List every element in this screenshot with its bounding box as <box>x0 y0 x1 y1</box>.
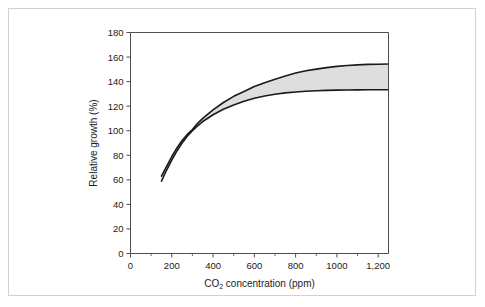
x-axis-title: CO2 concentration (ppm) <box>204 278 315 291</box>
chart-figure: 020040060080010001,200020406080100120140… <box>0 0 485 307</box>
y-axis-tick-label: 180 <box>108 27 124 38</box>
y-axis-tick-label: 140 <box>108 76 124 87</box>
relative-growth-vs-co2-chart: 020040060080010001,200020406080100120140… <box>0 0 485 307</box>
curve-lower-bound <box>161 90 388 181</box>
y-axis-tick-label: 20 <box>113 223 124 234</box>
x-axis-tick-label: 1000 <box>326 260 347 271</box>
y-axis-tick-label: 80 <box>113 150 124 161</box>
x-axis-tick-label: 800 <box>288 260 304 271</box>
y-axis-tick-label: 160 <box>108 52 124 63</box>
x-axis-tick-label: 200 <box>164 260 180 271</box>
y-axis-tick-label: 120 <box>108 101 124 112</box>
x-axis-tick-label: 0 <box>128 260 133 271</box>
y-axis-tick-label: 40 <box>113 199 124 210</box>
x-axis-tick-label: 600 <box>246 260 262 271</box>
x-axis-tick-label: 1,200 <box>366 260 390 271</box>
y-axis-title: Relative growth (%) <box>88 99 99 186</box>
y-axis-tick-label: 60 <box>113 174 124 185</box>
x-axis-tick-label: 400 <box>205 260 221 271</box>
y-axis-tick-label: 0 <box>118 248 123 259</box>
uncertainty-band <box>161 64 388 181</box>
y-axis-tick-label: 100 <box>108 125 124 136</box>
